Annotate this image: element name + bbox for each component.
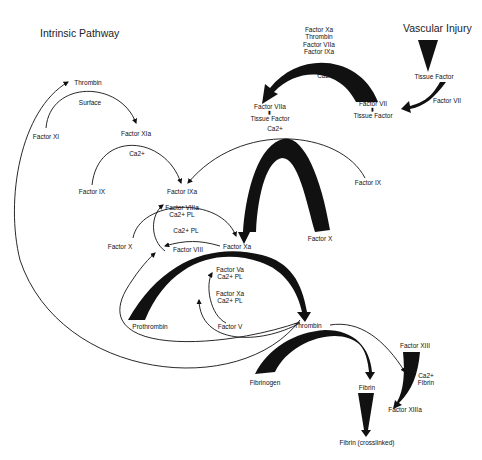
- label-tissue-factor: Tissue Factor: [414, 73, 453, 80]
- label-factor-vii-tissue-factor: Factor VII ▮ Tissue Factor: [353, 100, 392, 120]
- label-ca-fibrin: Ca2+ Fibrin: [418, 372, 434, 387]
- thick-arrow-fibrinogen-to-fibrin: [255, 330, 375, 380]
- label-fibrin-crosslinked: Fibrin (crosslinked): [340, 439, 395, 446]
- title-vascular-injury: Vascular Injury: [403, 22, 472, 34]
- label-surface: Surface: [79, 99, 101, 106]
- label-thrombin-top: Thrombin: [74, 79, 101, 86]
- label-ca-ix: Ca2+: [129, 150, 145, 157]
- label-fibrin: Fibrin: [359, 384, 375, 391]
- label-factor-x-left: Factor X: [108, 243, 133, 250]
- label-ca-extrinsic: Ca2+: [317, 72, 333, 79]
- label-factor-xiii: Factor XIII: [400, 342, 430, 349]
- label-thrombin: Thrombin: [294, 322, 321, 329]
- label-fibrinogen: Fibrinogen: [250, 379, 281, 386]
- label-prothrombin: Prothrombin: [132, 323, 167, 330]
- thick-arrow-fibrin-crosslink: [358, 393, 374, 437]
- label-factor-viiia-stack: Factor VIIIa Ca2+ PL: [165, 204, 199, 219]
- arrow-thrombin-to-v: [199, 300, 300, 337]
- label-factor-vii-right: Factor VII: [433, 97, 461, 104]
- label-factor-xia: Factor XIa: [121, 130, 151, 137]
- title-intrinsic-pathway: Intrinsic Pathway: [40, 27, 119, 39]
- label-factor-viia-tissue-factor: Factor VIIa ▮ Tissue Factor: [250, 103, 289, 123]
- label-factor-xa: Factor Xa: [223, 243, 251, 250]
- thick-arrow-vascular-injury: [418, 40, 438, 72]
- label-factor-va-stack: Factor Va Ca2+ PL: [216, 266, 244, 281]
- label-factor-xi: Factor XI: [33, 133, 59, 140]
- thick-arrow-x-to-xa: [238, 138, 330, 244]
- arrow-thrombin-to-xiii: [330, 324, 405, 372]
- thick-arrow-prothrombin-to-thrombin: [128, 251, 311, 322]
- arrow-xi-to-xia: [46, 91, 136, 128]
- label-ca-long: Ca2+: [267, 125, 283, 132]
- label-factor-ix-left: Factor IX: [79, 188, 105, 195]
- label-factor-ix-right: Factor IX: [355, 179, 381, 186]
- coagulation-cascade-arrows: [0, 0, 482, 460]
- label-factor-viii: Factor VIII: [173, 246, 203, 253]
- thick-arrow-vii-to-viia: [262, 63, 378, 104]
- label-extrinsic-activators: Factor Xa Thrombin Factor VIIa Factor IX…: [303, 26, 335, 56]
- label-factor-xa-stack: Factor Xa Ca2+ PL: [216, 290, 244, 305]
- label-factor-ixa: Factor IXa: [167, 188, 197, 195]
- label-factor-xiiia: Factor XIIIa: [388, 406, 422, 413]
- label-factor-v: Factor V: [218, 323, 243, 330]
- label-factor-x-right: Factor X: [308, 235, 333, 242]
- label-ca-pl-viii: Ca2+ PL: [173, 227, 198, 234]
